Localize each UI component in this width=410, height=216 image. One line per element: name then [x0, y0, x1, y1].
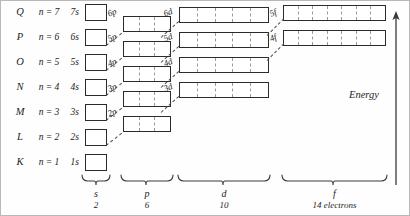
- shell-letter: L: [11, 132, 29, 143]
- orbital-cell: [299, 6, 314, 20]
- group-capacity: 10: [177, 200, 271, 210]
- group-label-d: d 10: [177, 188, 271, 210]
- orbital-cell: [140, 67, 156, 81]
- orbital-cell: [233, 83, 251, 97]
- group-label-f: f 14 electrons: [281, 188, 388, 210]
- energy-axis-arrow: [389, 9, 403, 189]
- orbital-label-2s: 2s: [63, 133, 79, 143]
- orbital-label-4s: 4s: [63, 83, 79, 93]
- orbital-cell: [140, 42, 156, 56]
- orbital-cell: [216, 8, 234, 22]
- group-capacity: 2: [81, 200, 111, 210]
- orbital-cell: [198, 8, 216, 22]
- group-label-s: s 2: [81, 188, 111, 210]
- orbital-cell: [86, 5, 106, 20]
- bracket-f: [281, 174, 388, 186]
- orbital-label-5f: 5f: [268, 8, 278, 19]
- orbital-cell: [371, 31, 385, 45]
- orbital-cell: [86, 80, 106, 95]
- orbital-cell: [342, 6, 357, 20]
- orbital-box-7s: [85, 4, 107, 21]
- orbital-cell: [124, 42, 140, 56]
- orbital-cell: [313, 6, 328, 20]
- orbital-cell: [233, 8, 251, 22]
- connector-5d-5f: [267, 18, 285, 36]
- orbital-cell: [180, 58, 198, 72]
- orbital-box-4s: [85, 79, 107, 96]
- orbital-label-5s: 5s: [63, 58, 79, 68]
- orbital-cell: [233, 58, 251, 72]
- orbital-box-2p: [123, 116, 171, 132]
- orbital-cell: [357, 31, 372, 45]
- shell-letter: Q: [11, 7, 29, 18]
- principal-quantum-number: n = 2: [31, 133, 67, 143]
- orbital-cell: [180, 83, 198, 97]
- orbital-cell: [198, 33, 216, 47]
- orbital-cell: [140, 92, 156, 106]
- group-symbol: s: [81, 188, 111, 200]
- bracket-s: [81, 174, 111, 186]
- principal-quantum-number: n = 4: [31, 83, 67, 93]
- orbital-cell: [216, 83, 234, 97]
- principal-quantum-number: n = 3: [31, 108, 67, 118]
- orbital-cell: [216, 33, 234, 47]
- group-capacity: 6: [120, 200, 174, 210]
- orbital-cell: [328, 31, 343, 45]
- orbital-cell: [299, 31, 314, 45]
- orbital-cell: [124, 117, 140, 131]
- principal-quantum-number: n = 6: [31, 33, 67, 43]
- orbital-cell: [328, 6, 343, 20]
- shell-letter: N: [11, 82, 29, 93]
- group-label-p: p 6: [120, 188, 174, 210]
- orbital-label-3s: 3s: [63, 108, 79, 118]
- orbital-cell: [86, 130, 106, 145]
- orbital-box-5d: [179, 32, 269, 48]
- orbital-box-5p: [123, 41, 171, 57]
- orbital-cell: [180, 33, 198, 47]
- orbital-cell: [284, 6, 299, 20]
- orbital-cell: [198, 58, 216, 72]
- orbital-cell: [342, 31, 357, 45]
- orbital-cell: [251, 58, 268, 72]
- orbital-cell: [180, 8, 198, 22]
- orbital-box-6p: [123, 16, 171, 32]
- orbital-box-3s: [85, 104, 107, 121]
- orbital-energy-diagram: Q P O N M L K n = 7 n = 6 n = 5 n = 4 n …: [0, 0, 410, 216]
- orbital-cell: [284, 31, 299, 45]
- orbital-cell: [198, 83, 216, 97]
- connector-4d-4f: [267, 43, 285, 61]
- orbital-box-4p: [123, 66, 171, 82]
- orbital-label-4f: 4f: [268, 33, 278, 44]
- orbital-cell: [251, 8, 268, 22]
- shell-letter: M: [11, 107, 29, 118]
- orbital-label-6p: 6p: [106, 7, 118, 19]
- shell-letter: K: [11, 157, 29, 168]
- principal-quantum-number: n = 1: [31, 158, 67, 168]
- shell-letter: P: [11, 32, 29, 43]
- orbital-box-5f: [283, 5, 386, 21]
- orbital-box-5s: [85, 54, 107, 71]
- group-capacity: 14 electrons: [281, 200, 388, 210]
- shell-letter: O: [11, 57, 29, 68]
- orbital-cell: [251, 83, 268, 97]
- orbital-cell: [233, 33, 251, 47]
- orbital-cell: [86, 105, 106, 120]
- orbital-cell: [251, 33, 268, 47]
- orbital-cell: [86, 55, 106, 70]
- orbital-cell: [371, 6, 385, 20]
- orbital-box-4d: [179, 57, 269, 73]
- orbital-cell: [155, 117, 170, 131]
- group-symbol: p: [120, 188, 174, 200]
- orbital-box-4f: [283, 30, 386, 46]
- orbital-cell: [124, 17, 140, 31]
- orbital-cell: [86, 30, 106, 45]
- group-symbol: f: [281, 188, 388, 200]
- bracket-p: [120, 174, 174, 186]
- orbital-box-2s: [85, 129, 107, 146]
- group-symbol: d: [177, 188, 271, 200]
- orbital-label-6d: 6d: [162, 7, 174, 19]
- orbital-label-7s: 7s: [63, 8, 79, 18]
- orbital-box-6s: [85, 29, 107, 46]
- bracket-d: [177, 174, 271, 186]
- principal-quantum-number: n = 5: [31, 58, 67, 68]
